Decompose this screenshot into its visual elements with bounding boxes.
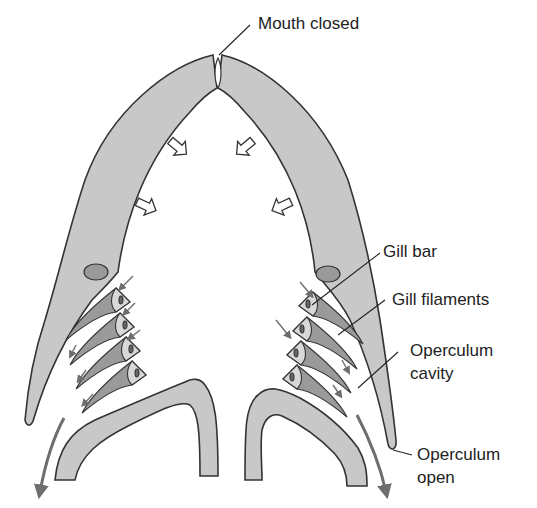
label-operculum-open-line2: open [417,468,455,488]
label-operculum-cavity-line2: cavity [410,364,453,384]
label-gill-bar: Gill bar [383,242,437,262]
label-mouth-closed: Mouth closed [258,14,359,34]
label-gill-filaments: Gill filaments [392,290,489,310]
left-gill-bar-oval [84,264,108,280]
mouth-seam [215,58,221,88]
label-operculum-open-line1: Operculum [417,445,500,465]
right-lower-wall [245,389,367,486]
fish-gill-diagram [0,0,537,508]
left-lower-wall [55,379,218,480]
label-operculum-cavity-line1: Operculum [410,341,493,361]
right-gill-bar-oval [316,266,340,282]
